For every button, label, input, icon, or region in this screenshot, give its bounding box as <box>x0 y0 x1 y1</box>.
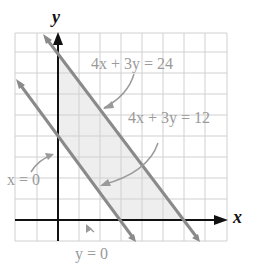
x-equals-zero-label: x = 0 <box>7 171 40 189</box>
equation-label-24: 4x + 3y = 24 <box>91 55 173 73</box>
x-axis-label: x <box>233 207 242 228</box>
graph-canvas <box>0 0 253 280</box>
y-axis-label: y <box>52 7 60 28</box>
x-axis-arrow-icon <box>214 215 228 225</box>
equation-label-12: 4x + 3y = 12 <box>128 109 210 127</box>
y-axis-arrow-icon <box>53 32 63 45</box>
y-equals-zero-label: y = 0 <box>75 245 108 263</box>
pointer-arrowhead-icon <box>86 224 92 233</box>
